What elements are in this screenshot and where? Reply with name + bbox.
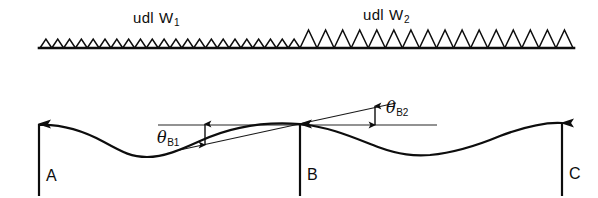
udl-w1-tooth [64,39,76,48]
udl-w1-subscript: 1 [174,17,180,28]
udl-w1-tooth [170,39,182,48]
theta-b2-subscript: B2 [396,107,408,118]
deflection-diagram-group [39,103,562,196]
udl-w2-symbol: W [389,6,403,23]
udl-w2-tooth [471,30,488,48]
udl-w1-tooth [205,39,217,48]
udl-w1-tooth [241,39,253,48]
udl-w1-tooth [111,39,123,48]
theta-b2-symbol: θ [386,98,396,117]
udl-w1-tooth [288,39,300,48]
udl-w1-tooth [229,39,241,48]
udl-w2-tooth [317,30,334,48]
udl-w1-triangles [40,39,300,48]
udl-w1-tooth [40,39,52,48]
udl-w1-tooth [276,39,288,48]
support-b-label: B [307,167,318,183]
theta-b1-symbol: θ [157,128,167,147]
udl-w1-tooth [87,39,99,48]
udl-w2-triangles [300,30,573,48]
udl-w2-tooth [402,30,419,48]
support-reaction-arrows [39,123,562,196]
support-c-label: C [569,166,581,182]
udl-w1-tooth [52,39,64,48]
udl-w1-tooth [253,39,265,48]
load-diagram-group [39,30,574,48]
udl-w2-tooth [488,30,505,48]
udl-w2-tooth [385,30,402,48]
tangent-line-at-b [175,103,396,151]
udl-w1-symbol: W [159,9,173,26]
udl-w1-tooth [123,39,135,48]
udl-w2-tooth [539,30,556,48]
udl-w2-label: udlW2 [363,7,410,25]
support-a-label: A [46,168,57,184]
udl-w2-tooth [351,30,368,48]
udl-w1-tooth [158,39,170,48]
udl-w2-subscript: 2 [404,14,410,25]
deflected-beam-right-span [300,123,562,155]
udl-w1-tooth [135,39,147,48]
udl-w2-tooth [334,30,351,48]
theta-b1-label: θB1 [157,130,179,148]
udl-w2-tooth [556,30,573,48]
udl-w2-tooth [522,30,539,48]
diagram-canvas [0,0,598,198]
udl-w1-tooth [265,39,277,48]
udl-w2-tooth [419,30,436,48]
udl-w2-tooth [454,30,471,48]
udl-w1-label: udlW1 [133,10,180,28]
udl-w1-tooth [75,39,87,48]
udl-w2-text: udl [363,6,384,23]
udl-w2-tooth [368,30,385,48]
beam-diagram-figure: udlW1 udlW2 θB1 θB2 A B C [0,0,598,198]
udl-w1-tooth [146,39,158,48]
udl-w1-tooth [99,39,111,48]
udl-w2-tooth [437,30,454,48]
udl-w1-text: udl [133,9,154,26]
udl-w2-tooth [300,30,317,48]
theta-b2-label: θB2 [386,100,408,118]
udl-w2-tooth [505,30,522,48]
theta-b1-subscript: B1 [167,137,179,148]
udl-w1-tooth [217,39,229,48]
udl-w1-tooth [182,39,194,48]
udl-w1-tooth [194,39,206,48]
